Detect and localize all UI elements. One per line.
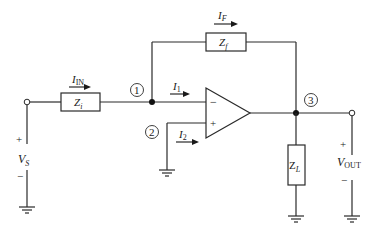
ground-symbol-vs <box>19 207 35 213</box>
output-terminal <box>349 110 355 116</box>
opamp <box>206 88 296 138</box>
vs-label: VS <box>18 152 29 168</box>
noninverting-branch <box>146 123 207 176</box>
input-terminal <box>24 99 30 105</box>
node-3-label: 3 <box>308 94 314 106</box>
output-branch <box>288 94 360 223</box>
ground-symbol-zl <box>288 216 304 222</box>
vs-minus: − <box>17 170 23 182</box>
opamp-minus-sign: − <box>210 95 217 109</box>
node-2-label: 2 <box>149 126 155 138</box>
iin-label: IIN <box>71 73 84 87</box>
vout-label: VOUT <box>337 155 361 170</box>
i1-arrow-icon <box>183 91 190 97</box>
node-1-label: 1 <box>134 84 140 96</box>
i1-label: I1 <box>172 80 181 94</box>
vout-plus: + <box>340 138 346 150</box>
ground-symbol-vout <box>344 216 360 222</box>
vout-minus: − <box>341 174 347 186</box>
node-1-dot <box>149 99 155 105</box>
if-label: IF <box>217 9 227 23</box>
input-branch <box>24 93 206 111</box>
if-arrow-icon <box>231 21 238 27</box>
iin-arrow-icon <box>84 84 91 90</box>
i2-label: I2 <box>178 128 187 142</box>
circuit-diagram: Zi Zf ZL IIN IF I1 I2 1 2 3 − + + VS − +… <box>0 0 376 232</box>
vs-plus: + <box>16 133 22 145</box>
opamp-plus-sign: + <box>210 117 216 129</box>
ground-symbol-n2 <box>159 170 175 176</box>
i2-arrow-icon <box>192 139 199 145</box>
